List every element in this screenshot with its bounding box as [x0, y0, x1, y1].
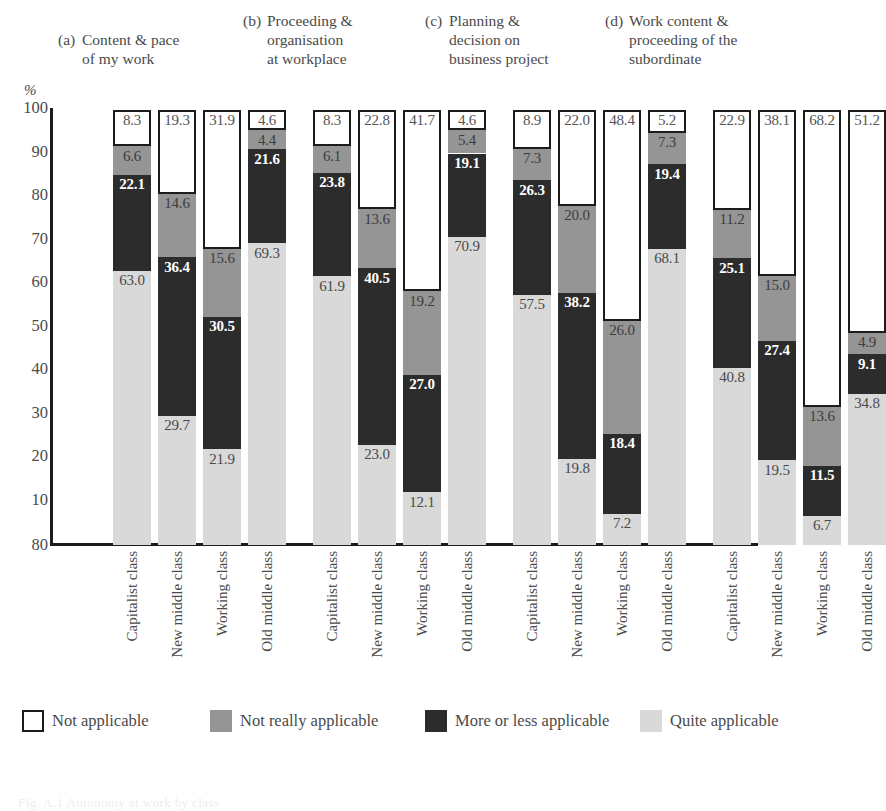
stacked-bar[interactable]: 48.426.018.47.2: [603, 110, 641, 545]
stacked-bar[interactable]: 8.36.123.861.9: [313, 110, 351, 545]
bar-value-label: 51.2: [848, 113, 886, 128]
bar-value-label: 68.2: [803, 113, 841, 128]
y-axis-tick: 30: [2, 403, 48, 423]
legend-item-not-really-applicable[interactable]: Not really applicable: [210, 705, 378, 737]
bar-segment-quite-applicable[interactable]: [848, 394, 886, 545]
bar-value-label: 40.5: [358, 271, 396, 286]
stacked-bar[interactable]: 19.314.636.429.7: [158, 110, 196, 545]
stacked-bar[interactable]: 22.020.038.219.8: [558, 110, 596, 545]
bar-segment-quite-applicable[interactable]: [158, 416, 196, 545]
bar-segment-not-applicable[interactable]: [758, 110, 796, 276]
bar-value-label: 41.7: [403, 113, 441, 128]
legend-item-more-or-less-applicable[interactable]: More or less applicable: [425, 705, 609, 737]
bar-value-label: 38.1: [758, 113, 796, 128]
bar-value-label: 68.1: [648, 251, 686, 266]
bar-value-label: 19.2: [403, 294, 441, 309]
legend-item-quite-applicable[interactable]: Quite applicable: [640, 705, 779, 737]
bar-value-label: 70.9: [448, 239, 486, 254]
panel-captions: (a) Content & pace of my work (b) Procee…: [0, 0, 778, 88]
bar-segment-not-applicable[interactable]: [403, 110, 441, 291]
bar-segment-quite-applicable[interactable]: [513, 295, 551, 545]
bar-value-label: 19.5: [758, 463, 796, 478]
chart-legend: Not applicable Not really applicable Mor…: [0, 705, 778, 745]
bar-segment-not-applicable[interactable]: [203, 110, 241, 249]
panel-tag-b: (b): [243, 11, 261, 30]
bar-segment-quite-applicable[interactable]: [248, 243, 286, 544]
bar-value-label: 48.4: [603, 113, 641, 128]
bar-segment-more-or-less-applicable[interactable]: [203, 317, 241, 450]
bar-segment-more-or-less-applicable[interactable]: [758, 341, 796, 460]
bar-segment-more-or-less-applicable[interactable]: [403, 375, 441, 492]
x-axis-category-text: New middle class: [169, 551, 186, 658]
x-axis-category-label: Old middle class: [448, 551, 486, 686]
y-axis-tick: 40: [2, 359, 48, 379]
bar-value-label: 22.1: [113, 177, 151, 192]
bar-value-label: 21.6: [248, 152, 286, 167]
stacked-bar[interactable]: 4.65.419.170.9: [448, 110, 486, 545]
bar-value-label: 6.7: [803, 518, 841, 533]
bar-segment-quite-applicable[interactable]: [713, 368, 751, 545]
y-axis-line: [50, 108, 53, 545]
x-axis-category-text: Working class: [614, 551, 631, 636]
stacked-bar[interactable]: 51.24.99.134.8: [848, 110, 886, 545]
bar-value-label: 11.2: [713, 212, 751, 227]
bar-segment-quite-applicable[interactable]: [648, 249, 686, 545]
bar-value-label: 36.4: [158, 260, 196, 275]
stacked-bar[interactable]: 68.213.611.56.7: [803, 110, 841, 545]
bar-value-label: 14.6: [158, 196, 196, 211]
stacked-bar[interactable]: 22.911.225.140.8: [713, 110, 751, 545]
stacked-bar[interactable]: 31.915.630.521.9: [203, 110, 241, 545]
bar-value-label: 6.6: [113, 149, 151, 164]
stacked-bar[interactable]: 4.64.421.669.3: [248, 110, 286, 545]
bar-segment-quite-applicable[interactable]: [448, 237, 486, 545]
panel-title-d: Work content & proceeding of the subordi…: [629, 11, 780, 68]
bar-value-label: 13.6: [358, 212, 396, 227]
bar-segment-not-applicable[interactable]: [803, 110, 841, 407]
bar-value-label: 61.9: [313, 279, 351, 294]
stacked-bar[interactable]: 8.97.326.357.5: [513, 110, 551, 545]
y-axis-tick: 70: [2, 229, 48, 249]
bar-value-label: 22.9: [713, 113, 751, 128]
x-axis-category-label: Capitalist class: [313, 551, 351, 686]
y-axis-tick: 100: [2, 98, 48, 118]
panel-tag-a: (a): [58, 30, 75, 49]
legend-item-not-applicable[interactable]: Not applicable: [22, 705, 149, 737]
bar-value-label: 23.8: [313, 175, 351, 190]
x-axis-category-text: Working class: [814, 551, 831, 636]
stacked-bar[interactable]: 41.719.227.012.1: [403, 110, 441, 545]
x-axis-category-label: Old middle class: [848, 551, 886, 686]
bar-segment-more-or-less-applicable[interactable]: [558, 293, 596, 459]
x-axis-category-label: Old middle class: [248, 551, 286, 686]
bar-segment-more-or-less-applicable[interactable]: [358, 268, 396, 444]
x-axis-category-text: Capitalist class: [724, 551, 741, 641]
stacked-bar[interactable]: 38.115.027.419.5: [758, 110, 796, 545]
bar-value-label: 18.4: [603, 436, 641, 451]
stacked-bar[interactable]: 5.27.319.468.1: [648, 110, 686, 545]
bar-segment-not-applicable[interactable]: [848, 110, 886, 333]
x-axis-category-text: Old middle class: [659, 551, 676, 652]
y-axis-tick: 60: [2, 272, 48, 292]
bar-value-label: 4.6: [448, 113, 486, 128]
bar-value-label: 27.4: [758, 343, 796, 358]
bar-value-label: 26.3: [513, 183, 551, 198]
panel-caption-d: (d) Work content & proceeding of the sub…: [605, 11, 780, 68]
bar-segment-quite-applicable[interactable]: [313, 276, 351, 545]
bar-segment-not-applicable[interactable]: [603, 110, 641, 321]
stacked-bar[interactable]: 8.36.622.163.0: [113, 110, 151, 545]
y-axis-tick: 90: [2, 142, 48, 162]
x-axis-category-label: New middle class: [358, 551, 396, 686]
x-axis-category-text: Old middle class: [859, 551, 876, 652]
x-axis-category-text: Working class: [414, 551, 431, 636]
legend-swatch-icon: [425, 710, 447, 732]
x-axis-category-labels: Capitalist classNew middle classWorking …: [0, 551, 778, 691]
bar-value-label: 29.7: [158, 418, 196, 433]
x-axis-category-text: Old middle class: [259, 551, 276, 652]
stacked-bar[interactable]: 22.813.640.523.0: [358, 110, 396, 545]
bar-segment-quite-applicable[interactable]: [113, 271, 151, 545]
bar-value-label: 40.8: [713, 370, 751, 385]
legend-swatch-icon: [22, 710, 44, 732]
bar-segment-more-or-less-applicable[interactable]: [158, 257, 196, 415]
bar-value-label: 19.3: [158, 113, 196, 128]
panel-tag-d: (d): [605, 11, 623, 30]
x-axis-category-label: Working class: [803, 551, 841, 686]
